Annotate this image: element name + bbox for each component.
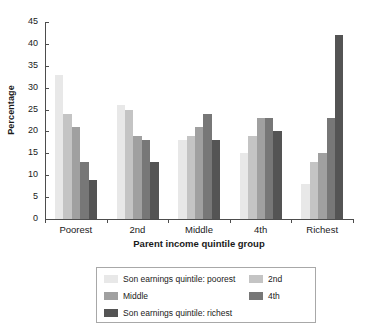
chart-legend: Son earnings quintile: poorest2ndMiddle4…: [96, 267, 316, 323]
bar: [150, 162, 158, 219]
x-axis-title: Parent income quintile group: [45, 238, 353, 249]
bar: [212, 140, 220, 219]
x-axis-line: [45, 219, 353, 220]
bar: [72, 127, 80, 219]
x-axis-tick-label: 4th: [230, 224, 292, 236]
legend-swatch: [104, 309, 118, 317]
bar: [63, 114, 71, 219]
x-axis-tick-label: Middle: [168, 224, 230, 236]
bar: [335, 35, 343, 219]
bar: [55, 75, 63, 219]
bar: [248, 136, 256, 219]
y-axis-tick-label: 35: [8, 60, 38, 71]
x-axis-tick-mark: [168, 219, 169, 223]
bar-chart-figure: Percentage 051015202530354045 Poorest2nd…: [0, 0, 371, 336]
x-axis-tick-mark: [353, 219, 354, 223]
legend-item: Middle: [104, 290, 148, 302]
legend-item: Son earnings quintile: poorest: [104, 273, 235, 285]
bar: [310, 162, 318, 219]
y-axis-tick-label: 15: [8, 147, 38, 158]
legend-item: Son earnings quintile: richest: [104, 307, 232, 319]
y-axis-tick-label: 40: [8, 38, 38, 49]
legend-label: Son earnings quintile: poorest: [123, 274, 235, 284]
bar-group: [301, 22, 343, 219]
bar-group: [178, 22, 220, 219]
bar: [301, 184, 309, 219]
y-axis-tick-label: 0: [8, 213, 38, 224]
legend-label: Middle: [123, 291, 148, 301]
x-axis-tick-mark: [230, 219, 231, 223]
bar: [178, 140, 186, 219]
bar: [195, 127, 203, 219]
legend-label: Son earnings quintile: richest: [123, 308, 232, 318]
bar-group: [117, 22, 159, 219]
x-axis-tick-mark: [45, 219, 46, 223]
x-axis-tick-label: Richest: [291, 224, 353, 236]
bar: [187, 136, 195, 219]
legend-label: 2nd: [268, 274, 282, 284]
x-axis-tick-label: Poorest: [45, 224, 107, 236]
legend-swatch: [249, 292, 263, 300]
bar: [133, 136, 141, 219]
bar: [273, 131, 281, 219]
y-axis-tick-label: 5: [8, 191, 38, 202]
legend-item: 2nd: [249, 273, 282, 285]
bar: [142, 140, 150, 219]
x-axis-tick-label: 2nd: [107, 224, 169, 236]
y-axis-tick-label: 30: [8, 82, 38, 93]
bar: [327, 118, 335, 219]
legend-swatch: [249, 275, 263, 283]
legend-swatch: [104, 275, 118, 283]
bar: [89, 180, 97, 219]
y-axis-tick-label: 10: [8, 169, 38, 180]
x-axis-tick-mark: [107, 219, 108, 223]
bar: [318, 153, 326, 219]
y-axis-tick-label: 25: [8, 104, 38, 115]
bar-series-container: [46, 22, 353, 219]
bar: [240, 153, 248, 219]
legend-swatch: [104, 292, 118, 300]
bar: [265, 118, 273, 219]
bar: [125, 110, 133, 219]
bar-group: [240, 22, 282, 219]
bar: [80, 162, 88, 219]
bar: [257, 118, 265, 219]
legend-label: 4th: [268, 291, 280, 301]
y-axis-tick-label: 45: [8, 16, 38, 27]
bar: [117, 105, 125, 219]
bar-group: [55, 22, 97, 219]
y-axis-tick-label: 20: [8, 125, 38, 136]
x-axis-tick-mark: [291, 219, 292, 223]
bar: [203, 114, 211, 219]
legend-item: 4th: [249, 290, 280, 302]
plot-area: 051015202530354045 Poorest2ndMiddle4thRi…: [45, 22, 353, 219]
